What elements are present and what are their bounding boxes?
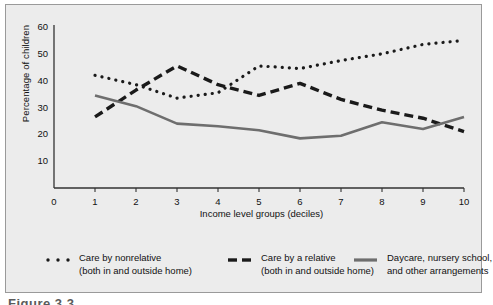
x-tick-0: 0 — [42, 196, 66, 207]
y-tick-10: 10 — [26, 155, 48, 166]
legend-label-line1: Care by nonrelative — [79, 252, 161, 263]
x-tick-9: 9 — [411, 196, 435, 207]
legend-label-line2: (both in and outside home) — [79, 265, 192, 278]
y-tick-50: 50 — [26, 48, 48, 59]
y-tick-40: 40 — [26, 75, 48, 86]
x-axis-label: Income level groups (deciles) — [54, 208, 469, 219]
y-tick-60: 60 — [26, 21, 48, 32]
y-tick-20: 20 — [26, 128, 48, 139]
chart-panel — [5, 4, 482, 293]
y-tick-30: 30 — [26, 102, 48, 113]
x-tick-1: 1 — [83, 196, 107, 207]
chart-legend: Care by nonrelative (both in and outside… — [5, 252, 482, 294]
x-tick-2: 2 — [124, 196, 148, 207]
legend-label-line1: Care by a relative — [261, 252, 335, 263]
x-tick-6: 6 — [288, 196, 312, 207]
x-tick-3: 3 — [165, 196, 189, 207]
figure-caption: Figure 3.3 — [8, 296, 74, 305]
x-tick-10: 10 — [452, 196, 476, 207]
dashed-line-marker — [227, 255, 257, 265]
x-tick-8: 8 — [370, 196, 394, 207]
x-tick-7: 7 — [329, 196, 353, 207]
legend-label: Care by nonrelative (both in and outside… — [79, 252, 192, 277]
legend-label: Daycare, nursery school, and other arran… — [387, 252, 492, 277]
legend-item-daycare: Daycare, nursery school, and other arran… — [353, 252, 493, 292]
solid-line-marker — [353, 255, 383, 265]
legend-label-line1: Daycare, nursery school, — [387, 252, 492, 263]
legend-label-line2: and other arrangements — [387, 265, 492, 278]
dotted-line-marker — [45, 255, 75, 265]
x-tick-5: 5 — [247, 196, 271, 207]
x-tick-4: 4 — [206, 196, 230, 207]
legend-item-care-by-nonrelative: Care by nonrelative (both in and outside… — [45, 252, 215, 292]
